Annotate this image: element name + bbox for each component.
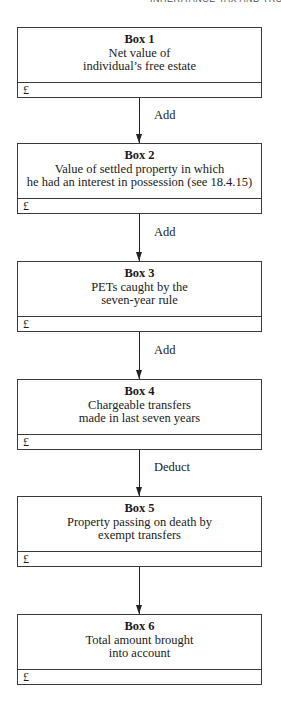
box-title: Box 4 <box>18 385 261 399</box>
box-title: Box 6 <box>18 620 261 634</box>
box-description-line: made in last seven years <box>18 412 261 426</box>
box-3: Box 3 PETs caught by the seven-year rule… <box>17 261 262 332</box>
arrow-down-icon <box>136 252 142 261</box>
arrow-down-icon <box>136 487 142 496</box>
box-description-line: PETs caught by the <box>18 281 261 295</box>
amount-field: £ <box>18 198 261 213</box>
flow-arrow: Add <box>139 332 141 379</box>
arrow-down-icon <box>136 134 142 143</box>
amount-field: £ <box>18 82 261 97</box>
operation-label: Add <box>154 225 176 240</box>
flow-arrow: Add <box>139 98 141 143</box>
box-description-line: Property passing on death by <box>18 516 261 530</box>
running-head: INHERITANCE TAX AND TRUSTS <box>150 0 281 4</box>
box-title: Box 3 <box>18 267 261 281</box>
box-4: Box 4 Chargeable transfers made in last … <box>17 379 262 450</box>
box-description-line: individual’s free estate <box>18 60 261 74</box>
box-2: Box 2 Value of settled property in which… <box>17 143 262 214</box>
box-description-line: Chargeable transfers <box>18 399 261 413</box>
amount-field: £ <box>18 434 261 449</box>
box-description-line: he had an interest in possession (see 18… <box>18 176 261 190</box>
box-title: Box 1 <box>18 33 261 47</box>
arrow-down-icon <box>136 370 142 379</box>
box-body: Box 5 Property passing on death by exemp… <box>18 497 261 551</box>
box-body: Box 1 Net value of individual’s free est… <box>18 28 261 82</box>
amount-field: £ <box>18 551 261 566</box>
operation-label: Add <box>154 108 176 123</box>
box-body: Box 3 PETs caught by the seven-year rule <box>18 262 261 316</box>
box-1: Box 1 Net value of individual’s free est… <box>17 27 262 98</box>
box-description-line: Value of settled property in which <box>18 163 261 177</box>
box-title: Box 2 <box>18 149 261 163</box>
box-description-line: seven-year rule <box>18 294 261 308</box>
box-description-line: exempt transfers <box>18 529 261 543</box>
box-6: Box 6 Total amount brought into account … <box>17 614 262 685</box>
box-description-line: into account <box>18 647 261 661</box>
box-body: Box 4 Chargeable transfers made in last … <box>18 380 261 434</box>
box-description-line: Net value of <box>18 47 261 61</box>
operation-label: Add <box>154 343 176 358</box>
flow-arrow: Deduct <box>139 450 141 496</box>
operation-label: Deduct <box>154 460 190 475</box>
box-title: Box 5 <box>18 502 261 516</box>
box-5: Box 5 Property passing on death by exemp… <box>17 496 262 567</box>
amount-field: £ <box>18 669 261 684</box>
flow-arrow <box>139 567 141 614</box>
amount-field: £ <box>18 316 261 331</box>
box-description-line: Total amount brought <box>18 634 261 648</box>
arrow-down-icon <box>136 605 142 614</box>
box-body: Box 6 Total amount brought into account <box>18 615 261 669</box>
flow-arrow: Add <box>139 214 141 261</box>
box-body: Box 2 Value of settled property in which… <box>18 144 261 198</box>
